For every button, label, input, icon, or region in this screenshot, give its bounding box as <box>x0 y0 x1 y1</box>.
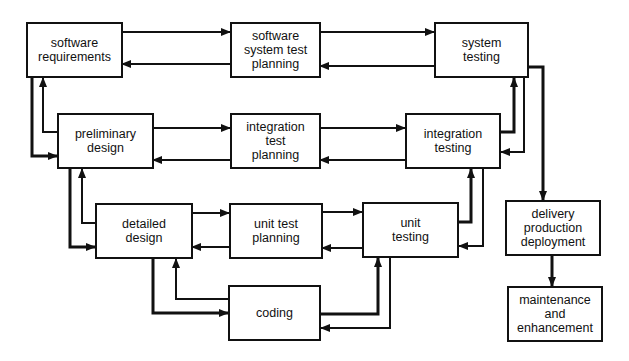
box-unit-testing: unit testing <box>362 202 459 258</box>
box-integration-testing: integration testing <box>405 113 501 169</box>
box-label: system testing <box>462 36 502 64</box>
box-preliminary-design: preliminary design <box>57 113 154 169</box>
box-label: maintenance and enhancement <box>517 293 593 335</box>
box-coding: coding <box>228 285 321 341</box>
box-software-requirements: software requirements <box>26 22 123 78</box>
box-label: unit test planning <box>252 217 299 245</box>
box-label: detailed design <box>122 217 166 245</box>
box-maintenance: maintenance and enhancement <box>507 286 603 342</box>
box-label: delivery production deployment <box>521 207 586 249</box>
box-software-system-test-planning: software system test planning <box>230 22 321 78</box>
box-system-testing: system testing <box>434 22 529 78</box>
box-label: software requirements <box>38 36 111 64</box>
box-label: software system test planning <box>244 29 307 71</box>
box-label: unit testing <box>392 216 429 244</box>
box-unit-test-planning: unit test planning <box>229 203 323 259</box>
box-detailed-design: detailed design <box>95 203 193 259</box>
box-label: integration testing <box>424 127 482 155</box>
box-label: coding <box>256 306 293 320</box>
box-integration-test-planning: integration test planning <box>230 113 321 169</box>
box-label: integration test planning <box>246 120 304 162</box>
box-label: preliminary design <box>75 127 136 155</box>
box-delivery: delivery production deployment <box>505 200 601 256</box>
